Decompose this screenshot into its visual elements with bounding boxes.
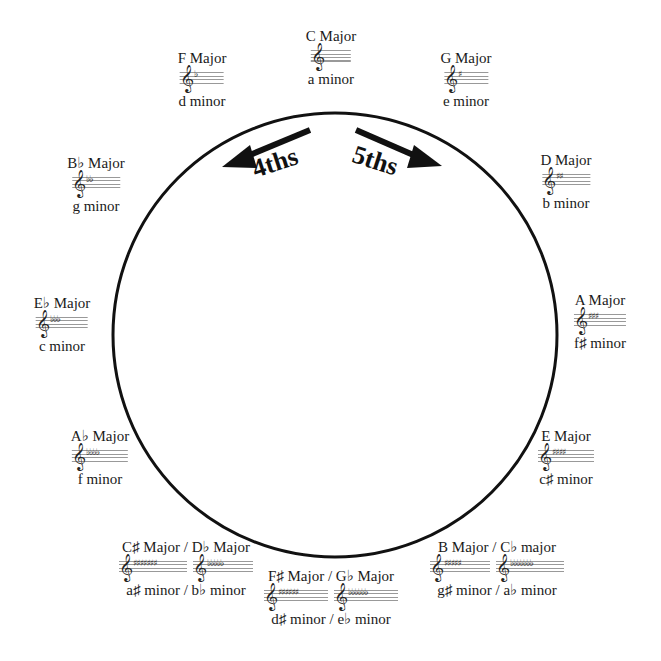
minor-key-label: d minor	[178, 93, 227, 110]
minor-key-label: a minor	[306, 71, 356, 88]
major-key-label: F♯ Major / G♭ Major	[264, 568, 398, 585]
treble-clef-icon: 𝄞	[542, 166, 556, 194]
key-accidentals: ♭♭♭♭♭	[207, 558, 223, 568]
staff: 𝄞 ♭♭	[72, 173, 120, 197]
treble-clef-icon: 𝄞	[264, 582, 278, 610]
treble-clef-icon: 𝄞	[119, 553, 133, 581]
minor-key-label: f minor	[71, 471, 129, 488]
staff: 𝄞	[311, 46, 351, 70]
treble-clef-icon: 𝄞	[334, 582, 348, 610]
key-signature-a: A Major 𝄞 ♯♯♯ f♯ minor	[574, 292, 626, 352]
treble-clef-icon: 𝄞	[430, 553, 444, 581]
staff: 𝄞 ♭♭♭♭♭	[193, 557, 253, 581]
key-signature-f: F Major 𝄞 ♭ d minor	[178, 50, 227, 110]
key-accidentals: ♭♭♭♭♭♭	[348, 587, 367, 597]
staff: 𝄞 ♯	[444, 68, 488, 92]
major-key-label: C♯ Major / D♭ Major	[119, 539, 253, 556]
staff: 𝄞 ♯♯♯♯♯♯♯	[119, 557, 187, 581]
key-accidentals: ♯♯♯	[588, 311, 598, 321]
key-accidentals: ♭♭♭	[50, 314, 60, 324]
key-accidentals: ♯	[458, 69, 461, 79]
circle-of-fifths-ring	[113, 113, 557, 557]
treble-clef-icon: 𝄞	[72, 169, 86, 197]
key-signature-fs: F♯ Major / G♭ Major 𝄞 ♯♯♯♯♯♯ 𝄞 ♭♭♭♭♭♭ d♯…	[264, 568, 398, 628]
key-accidentals: ♭♭	[86, 174, 93, 184]
staff: 𝄞 ♭♭♭	[36, 313, 88, 337]
minor-key-label: b minor	[540, 195, 591, 212]
key-signature-eb: E♭ Major 𝄞 ♭♭♭ c minor	[34, 295, 91, 355]
treble-clef-icon: 𝄞	[444, 64, 458, 92]
treble-clef-icon: 𝄞	[496, 553, 510, 581]
key-accidentals: ♭♭♭♭♭♭♭	[510, 558, 533, 568]
key-accidentals: ♯♯	[556, 171, 563, 181]
minor-key-label: a♯ minor / b♭ minor	[119, 582, 253, 599]
staff: 𝄞 ♭	[180, 68, 224, 92]
treble-clef-icon: 𝄞	[538, 442, 552, 470]
key-signature-e: E Major 𝄞 ♯♯♯♯ c♯ minor	[538, 428, 594, 488]
staff: 𝄞 ♯♯♯♯♯	[430, 557, 490, 581]
key-signature-cs: C♯ Major / D♭ Major 𝄞 ♯♯♯♯♯♯♯ 𝄞 ♭♭♭♭♭ a♯…	[119, 539, 253, 599]
treble-clef-icon: 𝄞	[574, 306, 588, 334]
key-signature-b: B Major / C♭ major 𝄞 ♯♯♯♯♯ 𝄞 ♭♭♭♭♭♭♭ g♯ …	[430, 539, 564, 599]
treble-clef-icon: 𝄞	[193, 553, 207, 581]
staff: 𝄞 ♯♯♯♯♯♯	[264, 586, 328, 610]
key-accidentals: ♯♯♯♯	[552, 447, 565, 457]
key-accidentals: ♯♯♯♯♯	[444, 558, 461, 568]
treble-clef-icon: 𝄞	[36, 309, 50, 337]
key-signature-d: D Major 𝄞 ♯♯ b minor	[540, 152, 591, 212]
minor-key-label: e minor	[440, 93, 491, 110]
treble-clef-icon: 𝄞	[72, 442, 86, 470]
key-accidentals: ♭	[194, 69, 197, 79]
minor-key-label: f♯ minor	[574, 335, 626, 352]
key-signature-g: G Major 𝄞 ♯ e minor	[440, 50, 491, 110]
minor-key-label: g minor	[67, 198, 125, 215]
staff: 𝄞 ♭♭♭♭♭♭♭	[496, 557, 564, 581]
staff: 𝄞 ♯♯	[542, 170, 590, 194]
key-signature-ab: A♭ Major 𝄞 ♭♭♭♭ f minor	[71, 428, 129, 488]
staff: 𝄞 ♯♯♯	[574, 310, 626, 334]
key-signature-c: C Major 𝄞 a minor	[306, 28, 356, 88]
staff: 𝄞 ♯♯♯♯	[538, 446, 594, 470]
minor-key-label: d♯ minor / e♭ minor	[264, 611, 398, 628]
treble-clef-icon: 𝄞	[311, 42, 325, 70]
key-accidentals: ♭♭♭♭	[86, 447, 99, 457]
treble-clef-icon: 𝄞	[180, 64, 194, 92]
minor-key-label: c minor	[34, 338, 91, 355]
staff: 𝄞 ♭♭♭♭♭♭	[334, 586, 398, 610]
key-accidentals: ♯♯♯♯♯♯♯	[133, 558, 157, 568]
staff: 𝄞 ♭♭♭♭	[72, 446, 128, 470]
key-accidentals: ♯♯♯♯♯♯	[278, 587, 298, 597]
minor-key-label: c♯ minor	[538, 471, 594, 488]
key-signature-bb: B♭ Major 𝄞 ♭♭ g minor	[67, 155, 125, 215]
minor-key-label: g♯ minor / a♭ minor	[430, 582, 564, 599]
